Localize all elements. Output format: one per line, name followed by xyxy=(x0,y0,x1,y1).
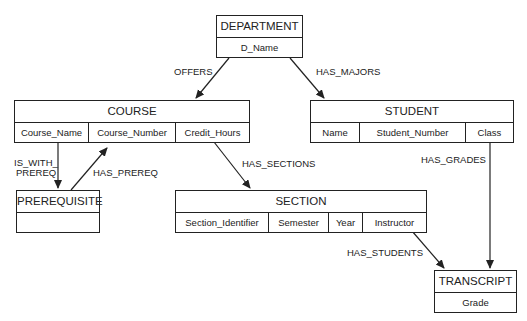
attribute-d-name: D_Name xyxy=(217,38,302,57)
attribute-name: Name xyxy=(311,123,360,142)
label-is-with-prereq-line2: PREREQ xyxy=(16,167,56,178)
label-has-sections: HAS_SECTIONS xyxy=(242,158,315,169)
entity-title: TRANSCRIPT xyxy=(435,271,516,293)
attribute-instructor: Instructor xyxy=(363,213,426,232)
label-has-students: HAS_STUDENTS xyxy=(347,247,423,258)
entity-title: COURSE xyxy=(15,101,249,123)
entity-title: DEPARTMENT xyxy=(217,16,302,38)
attribute-credit-hours: Credit_Hours xyxy=(176,123,249,142)
entity-title: STUDENT xyxy=(311,101,513,123)
label-has-prereq: HAS_PREREQ xyxy=(93,167,158,178)
offers-arrow xyxy=(196,58,229,98)
attribute-course-name: Course_Name xyxy=(15,123,89,142)
has-majors-arrow xyxy=(290,58,324,98)
entity-title: PREREQUISITE xyxy=(17,191,99,213)
entity-prerequisite: PREREQUISITE xyxy=(16,190,100,233)
attribute-year: Year xyxy=(329,213,363,232)
attribute-section-identifier: Section_Identifier xyxy=(176,213,269,232)
label-has-majors: HAS_MAJORS xyxy=(316,66,380,77)
entity-section: SECTION Section_Identifier Semester Year… xyxy=(175,190,427,233)
attribute-empty xyxy=(17,213,99,232)
entity-student: STUDENT Name Student_Number Class xyxy=(310,100,514,143)
entity-department: DEPARTMENT D_Name xyxy=(216,15,303,58)
entity-course: COURSE Course_Name Course_Number Credit_… xyxy=(14,100,250,143)
attribute-class: Class xyxy=(466,123,513,142)
attribute-grade: Grade xyxy=(435,293,516,312)
attribute-semester: Semester xyxy=(269,213,329,232)
entity-title: SECTION xyxy=(176,191,426,213)
label-has-grades: HAS_GRADES xyxy=(421,154,486,165)
attribute-student-number: Student_Number xyxy=(360,123,466,142)
label-offers: OFFERS xyxy=(174,66,213,77)
entity-transcript: TRANSCRIPT Grade xyxy=(434,270,517,313)
attribute-course-number: Course_Number xyxy=(89,123,176,142)
